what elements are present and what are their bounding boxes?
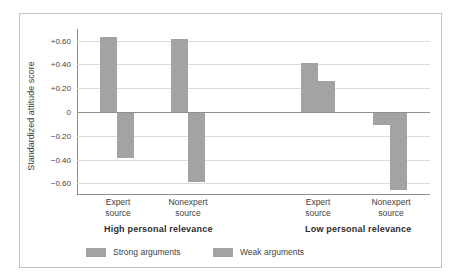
- category-label-high-nonexpert: Nonexpert source: [168, 197, 207, 219]
- gridline: [77, 64, 430, 65]
- chart-frame: Standardized attitude score +0.60+0.40+0…: [19, 13, 442, 268]
- y-tick-label: −0.60: [29, 179, 71, 189]
- category-label-line: Expert: [305, 197, 331, 208]
- legend-label-weak-arguments: Weak arguments: [240, 247, 304, 257]
- bar-weak-arguments-2: [318, 81, 335, 112]
- legend-item-strong: Strong arguments: [86, 247, 181, 257]
- plot-area: +0.60+0.40+0.200−0.20−0.40−0.60: [77, 29, 430, 195]
- bar-strong-arguments-1: [171, 39, 188, 112]
- bar-weak-arguments-0: [117, 113, 134, 158]
- bar-weak-arguments-1: [188, 113, 205, 182]
- y-tick-label: +0.60: [29, 37, 71, 47]
- bar-strong-arguments-2: [301, 63, 318, 112]
- y-tick-label: 0: [29, 108, 71, 118]
- y-tick-label: +0.20: [29, 84, 71, 94]
- category-label-line: Nonexpert: [168, 197, 207, 208]
- figure: Standardized attitude score +0.60+0.40+0…: [0, 0, 464, 280]
- x-axis-line: [77, 194, 430, 195]
- gridline: [77, 41, 430, 42]
- y-tick-label: −0.40: [29, 156, 71, 166]
- gridline: [77, 88, 430, 89]
- gridline: [77, 160, 430, 161]
- category-label-line: Expert: [105, 197, 131, 208]
- y-tick-label: −0.20: [29, 132, 71, 142]
- category-label-line: Nonexpert: [371, 197, 410, 208]
- legend-swatch-strong-arguments: [86, 248, 106, 257]
- bar-weak-arguments-3: [390, 113, 407, 190]
- category-label-line: source: [105, 208, 131, 219]
- legend-swatch-weak-arguments: [213, 248, 233, 257]
- group-label-high-relevance: High personal relevance: [104, 224, 213, 234]
- category-label-low-nonexpert: Nonexpert source: [371, 197, 410, 219]
- bar-strong-arguments-0: [100, 37, 117, 112]
- y-tick-label: +0.40: [29, 60, 71, 70]
- category-label-line: source: [168, 208, 207, 219]
- bar-strong-arguments-3: [373, 113, 390, 125]
- legend-label-strong-arguments: Strong arguments: [113, 247, 181, 257]
- category-label-high-expert: Expert source: [105, 197, 131, 219]
- legend-item-weak: Weak arguments: [213, 247, 304, 257]
- gridline: [77, 183, 430, 184]
- category-label-line: source: [371, 208, 410, 219]
- group-label-low-relevance: Low personal relevance: [305, 224, 411, 234]
- category-label-line: source: [305, 208, 331, 219]
- category-label-low-expert: Expert source: [305, 197, 331, 219]
